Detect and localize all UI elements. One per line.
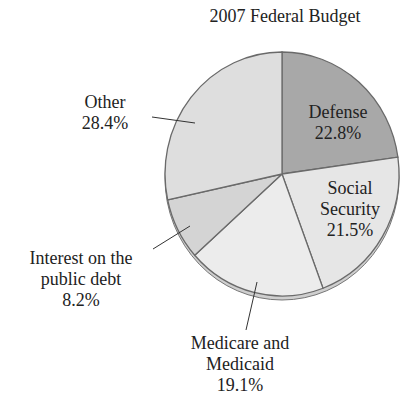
label-social-security: Social Security 21.5% [300, 178, 400, 241]
label-other: Other 28.4% [55, 92, 155, 134]
label-interest: Interest on the public debt 8.2% [8, 248, 154, 311]
label-medicare: Medicare and Medicaid 19.1% [170, 333, 310, 396]
label-defense: Defense 22.8% [288, 102, 388, 144]
pie-slice-other [165, 52, 282, 200]
pie-slices [165, 52, 399, 300]
